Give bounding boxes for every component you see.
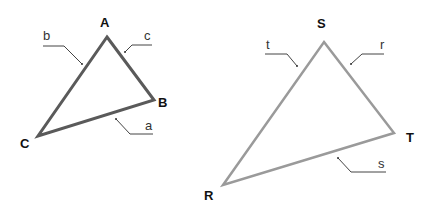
side-label-s: s bbox=[378, 156, 385, 171]
vertex-label-s: S bbox=[317, 16, 326, 31]
side-label-t: t bbox=[266, 37, 270, 52]
leader-dot-s bbox=[337, 157, 339, 159]
leader-dot-c bbox=[124, 51, 126, 53]
leader-line-t bbox=[265, 54, 297, 66]
leader-line-b bbox=[43, 46, 82, 64]
leader-line-c bbox=[125, 45, 152, 52]
vertex-label-r: R bbox=[204, 188, 214, 203]
triangle-rst bbox=[223, 42, 394, 185]
leader-dot-t bbox=[296, 65, 298, 67]
vertex-label-a: A bbox=[100, 15, 110, 30]
vertex-label-c: C bbox=[20, 136, 30, 151]
triangles-diagram: A B C b c a S T R t r s bbox=[0, 0, 434, 209]
leader-line-r bbox=[351, 54, 384, 64]
triangle-abc bbox=[38, 37, 154, 136]
vertex-label-t: T bbox=[406, 130, 414, 145]
side-label-r: r bbox=[380, 37, 385, 52]
side-label-b: b bbox=[43, 28, 50, 43]
side-label-a: a bbox=[145, 118, 153, 133]
leader-dot-a bbox=[115, 118, 117, 120]
leader-dot-b bbox=[81, 63, 83, 65]
side-label-c: c bbox=[144, 28, 151, 43]
vertex-label-b: B bbox=[158, 95, 167, 110]
leader-dot-r bbox=[350, 63, 352, 65]
